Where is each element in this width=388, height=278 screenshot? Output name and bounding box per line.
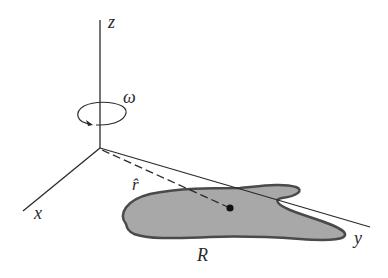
unit-vector-label: r̂	[132, 176, 139, 193]
y-axis-label: y	[354, 229, 362, 247]
region-r-shape	[123, 185, 345, 240]
z-axis-label: z	[108, 13, 115, 31]
rotation-arrow-icon	[78, 102, 126, 125]
region-label: R	[197, 246, 208, 264]
rotation-arrowhead-icon	[86, 120, 93, 126]
point-dot	[226, 204, 233, 211]
diagram-svg	[0, 0, 388, 278]
x-axis-label: x	[34, 204, 42, 222]
omega-label: ω	[123, 88, 136, 106]
diagram-canvas: z ω x y r̂ R	[0, 0, 388, 278]
x-axis-line	[23, 148, 100, 211]
